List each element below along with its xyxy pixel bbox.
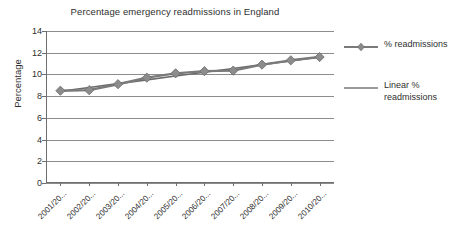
data-point-marker[interactable] [286,56,295,65]
x-tick-mark [320,183,321,186]
x-axis-ticks: 2001/20...2002/20...2003/20...2004/20...… [46,183,334,243]
chart-legend: % readmissions Linear % readmissions [344,38,462,122]
legend-label-linear-readmissions: Linear % readmissions [384,79,462,103]
plot-area [46,31,334,183]
legend-entry-readmissions[interactable]: % readmissions [344,38,462,60]
x-tick-mark [291,183,292,186]
y-tick-label: 6 [12,113,42,123]
y-tick-label: 2 [12,156,42,166]
y-tick-label: 12 [12,48,42,58]
x-tick-mark [89,183,90,186]
x-tick-mark [147,183,148,186]
x-tick-mark [60,183,61,186]
data-point-marker[interactable] [113,80,122,89]
x-tick-mark [262,183,263,186]
y-tick-label: 4 [12,135,42,145]
chart-title: Percentage emergency readmissions in Eng… [0,6,350,17]
data-point-marker[interactable] [257,60,266,69]
y-tick-label: 14 [12,26,42,36]
legend-entry-linear-readmissions[interactable]: Linear % readmissions [344,79,462,103]
x-tick-mark [204,183,205,186]
y-tick-label: 10 [12,69,42,79]
x-tick-mark [176,183,177,186]
data-point-marker[interactable] [315,52,324,61]
y-axis-ticks: 02468101214 [8,31,42,183]
series-layer [46,31,334,183]
legend-line-icon [344,83,378,93]
y-tick-label: 8 [12,91,42,101]
chart-container: Percentage emergency readmissions in Eng… [0,0,463,245]
data-point-marker[interactable] [56,86,65,95]
y-tick-label: 0 [12,178,42,188]
legend-label-readmissions: % readmissions [384,38,462,50]
data-point-marker[interactable] [200,67,209,76]
legend-line-marker-icon [344,42,378,52]
x-tick-mark [118,183,119,186]
x-tick-mark [233,183,234,186]
